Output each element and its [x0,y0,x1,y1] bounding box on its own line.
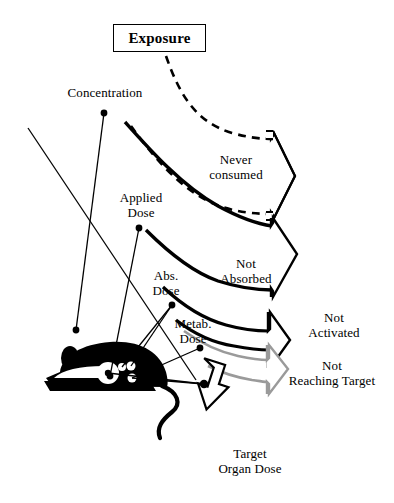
dot-organ-center [105,370,111,376]
target-organ-arrow-shape [189,358,234,414]
exposure-label: Exposure [128,30,190,47]
target-organ-dose-arrow [189,358,234,414]
label-metab-dose: Metab. Dose [160,316,226,347]
mouse-base-plate [44,381,156,391]
mouse-tail [159,386,178,438]
label-abs-dose: Abs. Dose [133,268,199,299]
label-not-absorbed: Not Absorbed [208,256,284,287]
dot-concentration-top [101,110,108,117]
leader-concentration [76,113,104,330]
mouse-ear [61,346,79,370]
never-consumed-upper-edge [166,56,273,139]
dose-flow-diagram: Exposure Concentration Applied Dose Abs.… [0,0,394,503]
label-not-activated: Not Activated [288,310,380,341]
exposure-box: Exposure [113,24,206,52]
label-not-reaching-target: Not Reaching Target [272,358,392,389]
dot-abs-dose [169,302,176,309]
label-target-organ-dose: Target Organ Dose [193,446,307,477]
dot-target-organ [200,380,208,388]
label-concentration: Concentration [41,86,169,101]
dot-applied-dose [136,225,143,232]
mouse-silhouette [44,342,177,438]
label-applied-dose: Applied Dose [99,190,183,221]
label-never-consumed: Never consumed [194,152,278,183]
dot-concentration-bottom [73,327,80,334]
never-consumed-notch-top [266,131,273,139]
diagram-vector-layer [0,0,394,503]
